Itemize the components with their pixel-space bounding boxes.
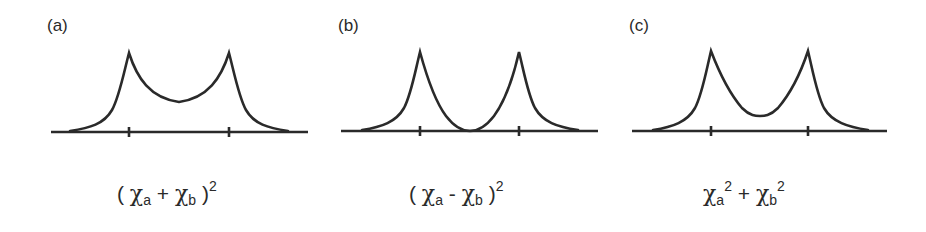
superscript-2: 2: [777, 178, 785, 194]
superscript-2: 2: [496, 178, 504, 194]
panel-c-label: (c): [629, 16, 649, 36]
operator-plus: +: [157, 182, 169, 205]
subscript-b: b: [475, 192, 483, 208]
panel-a-plot: [51, 53, 308, 137]
operator-plus: +: [738, 182, 750, 205]
panel-b-formula: ( χa - χb )2: [409, 178, 503, 208]
panel-b-label: (b): [338, 16, 359, 36]
panel-b-plot: [341, 52, 598, 136]
chi-symbol: χ: [703, 181, 716, 206]
subscript-a: a: [716, 192, 724, 208]
open-paren: (: [117, 182, 124, 205]
panel-c-formula: χa2 + χb2: [703, 178, 785, 208]
subscript-a: a: [143, 192, 151, 208]
panel-c-density-curve: [653, 51, 868, 130]
chi-symbol: χ: [130, 181, 143, 206]
panel-b-density-curve: [362, 52, 578, 131]
chi-symbol: χ: [422, 181, 435, 206]
close-paren: ): [202, 182, 209, 205]
chi-symbol: χ: [756, 181, 769, 206]
chi-symbol: χ: [175, 181, 188, 206]
panel-a-density-curve: [70, 53, 288, 131]
subscript-b: b: [769, 192, 777, 208]
operator-minus: -: [449, 182, 456, 205]
panel-a-formula: ( χa + χb )2: [117, 178, 217, 208]
close-paren: ): [489, 182, 496, 205]
subscript-a: a: [435, 192, 443, 208]
superscript-2: 2: [209, 178, 217, 194]
superscript-2: 2: [724, 178, 732, 194]
subscript-b: b: [188, 192, 196, 208]
panel-c-plot: [632, 51, 887, 136]
chi-symbol: χ: [462, 181, 475, 206]
panel-a-label: (a): [47, 16, 68, 36]
open-paren: (: [409, 182, 416, 205]
